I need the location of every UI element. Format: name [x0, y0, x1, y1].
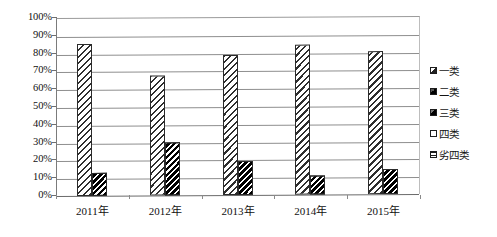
x-axis-tick-mark	[202, 195, 203, 199]
y-axis-tick-label: 50%	[8, 101, 52, 111]
bar-group-2014	[274, 16, 347, 194]
legend-item-class-2[interactable]: 二类	[430, 81, 494, 102]
legend-item-class-3[interactable]: 三类	[430, 102, 494, 123]
x-axis-tick-label: 2015年	[349, 205, 419, 217]
x-axis-tick-label: 2014年	[276, 205, 346, 217]
x-axis-tick-mark	[420, 195, 421, 199]
y-axis-tick-label: 0%	[8, 190, 52, 200]
bar-group-2011	[56, 18, 129, 196]
y-axis: 100% 90% 80% 70% 60% 50% 40% 30% 20% 10%…	[0, 17, 52, 195]
bar-series-class-worse-4-2015	[383, 169, 398, 194]
bar-series-class-3-2014	[295, 44, 310, 194]
y-axis-tick-label: 10%	[8, 172, 52, 182]
x-axis-tick-mark	[347, 195, 348, 199]
legend-item-class-4[interactable]: 四类	[430, 123, 494, 144]
y-axis-tick-label: 70%	[8, 65, 52, 75]
bar-series-class-worse-4-2013	[238, 161, 253, 195]
legend-swatch-class-4-icon	[430, 130, 437, 137]
legend-swatch-class-3-icon	[430, 109, 437, 116]
bar-series-class-3-2011	[77, 44, 92, 196]
chart-legend: 一类 二类 三类 四类 劣四类	[430, 60, 494, 165]
legend-label-class-4: 四类	[439, 126, 459, 141]
x-axis: 2011年 2012年 2013年 2014年 2015年	[56, 198, 420, 222]
bar-series-class-worse-4-2012	[165, 142, 180, 195]
x-axis-tick-mark	[56, 195, 57, 199]
y-axis-tick-label: 60%	[8, 83, 52, 93]
y-axis-tick-label: 80%	[8, 48, 52, 58]
legend-label-class-worse-4: 劣四类	[439, 147, 469, 162]
x-axis-tick-mark	[129, 195, 130, 199]
legend-swatch-class-worse-4-icon	[430, 151, 437, 158]
x-axis-tick-label: 2011年	[57, 205, 127, 217]
bar-group-2012	[129, 17, 202, 195]
x-axis-tick-label: 2012年	[130, 205, 200, 217]
legend-swatch-class-1-icon	[430, 67, 437, 74]
bar-series-class-worse-4-2011	[92, 173, 107, 196]
bars-layer	[56, 16, 420, 196]
bar-series-class-3-2015	[368, 51, 383, 194]
legend-item-class-1[interactable]: 一类	[430, 60, 494, 81]
y-axis-tick-label: 100%	[8, 12, 52, 22]
bar-chart: 100% 90% 80% 70% 60% 50% 40% 30% 20% 10%…	[0, 0, 497, 237]
legend-swatch-class-2-icon	[430, 88, 437, 95]
y-axis-tick-label: 20%	[8, 154, 52, 164]
bar-series-class-3-2013	[223, 55, 238, 195]
x-axis-tick-label: 2013年	[203, 205, 273, 217]
legend-label-class-2: 二类	[439, 84, 459, 99]
x-axis-tick-mark	[274, 195, 275, 199]
legend-label-class-1: 一类	[439, 63, 459, 78]
y-axis-tick-label: 30%	[8, 137, 52, 147]
bar-group-2015	[347, 16, 420, 194]
legend-label-class-3: 三类	[439, 105, 459, 120]
legend-item-class-worse-4[interactable]: 劣四类	[430, 144, 494, 165]
bar-series-class-worse-4-2014	[310, 175, 325, 195]
bar-series-class-3-2012	[150, 75, 165, 195]
y-axis-tick-label: 90%	[8, 30, 52, 40]
bar-group-2013	[202, 17, 275, 195]
y-axis-tick-label: 40%	[8, 119, 52, 129]
